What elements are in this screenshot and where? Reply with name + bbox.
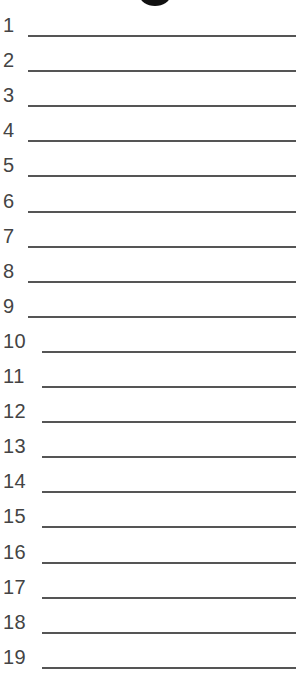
item-number: 14	[3, 471, 26, 491]
list-item: 12	[0, 388, 302, 423]
list-item: 8	[0, 248, 302, 283]
item-number: 9	[3, 296, 15, 316]
list-item: 3	[0, 72, 302, 107]
list-item: 7	[0, 213, 302, 248]
list-item: 16	[0, 529, 302, 564]
list-item: 13	[0, 423, 302, 458]
item-number: 5	[3, 155, 15, 175]
list-item: 11	[0, 353, 302, 388]
item-number: 8	[3, 261, 15, 281]
blank-answer-line[interactable]	[42, 667, 296, 669]
item-number: 17	[3, 577, 26, 597]
list-item: 9	[0, 283, 302, 318]
list-item: 2	[0, 37, 302, 72]
item-number: 2	[3, 50, 15, 70]
item-number: 7	[3, 226, 15, 246]
list-item: 4	[0, 107, 302, 142]
item-number: 13	[3, 436, 26, 456]
item-number: 11	[3, 366, 25, 386]
item-number: 3	[3, 85, 15, 105]
list-item: 17	[0, 564, 302, 599]
item-number: 10	[3, 331, 26, 351]
item-number: 19	[3, 647, 26, 667]
list-item: 15	[0, 493, 302, 528]
list-item: 6	[0, 178, 302, 213]
item-number: 4	[3, 120, 15, 140]
item-number: 1	[3, 15, 15, 35]
list-item: 1	[0, 2, 302, 37]
list-item: 10	[0, 318, 302, 353]
item-number: 16	[3, 542, 26, 562]
item-number: 12	[3, 401, 26, 421]
list-item: 18	[0, 599, 302, 634]
item-number: 6	[3, 191, 15, 211]
item-number: 18	[3, 612, 26, 632]
list-item: 19	[0, 634, 302, 669]
list-item: 14	[0, 458, 302, 493]
list-item: 5	[0, 142, 302, 177]
item-number: 15	[3, 506, 26, 526]
